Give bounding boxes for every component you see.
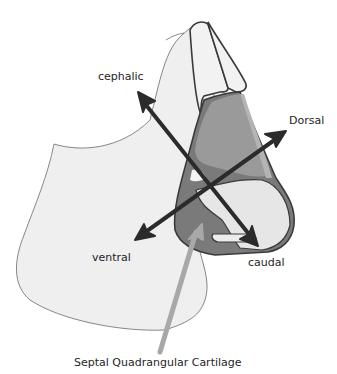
septum-diagram: cephalic Dorsal ventral caudal Septal Qu… bbox=[0, 0, 337, 374]
label-dorsal: Dorsal bbox=[289, 114, 324, 127]
label-ventral: ventral bbox=[92, 251, 131, 264]
label-cephalic: cephalic bbox=[98, 70, 144, 83]
diagram-canvas bbox=[0, 0, 337, 374]
label-caudal: caudal bbox=[248, 256, 285, 269]
label-septal-quadrangular-cartilage: Septal Quadrangular Cartilage bbox=[74, 356, 242, 369]
